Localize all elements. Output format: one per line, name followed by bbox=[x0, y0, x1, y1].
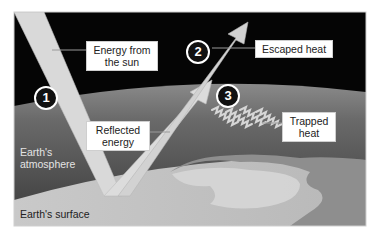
atmosphere-label-line: atmosphere bbox=[20, 158, 75, 170]
callout-line: heat bbox=[288, 127, 330, 139]
callout-line: Energy from bbox=[92, 44, 152, 56]
callout-escaped-heat: Escaped heat bbox=[255, 40, 333, 58]
callout-line: energy bbox=[92, 136, 144, 148]
surface-label: Earth's surface bbox=[20, 208, 90, 220]
atmosphere-label: Earth's atmosphere bbox=[20, 146, 75, 170]
callout-line: Escaped heat bbox=[261, 43, 327, 55]
step-marker-3: 3 bbox=[216, 84, 240, 108]
callout-reflected-energy: Reflected energy bbox=[86, 121, 150, 151]
callout-energy-from-sun: Energy from the sun bbox=[86, 41, 158, 71]
atmosphere-label-line: Earth's bbox=[20, 146, 75, 158]
callout-trapped-heat: Trapped heat bbox=[282, 112, 336, 142]
callout-line: the sun bbox=[92, 56, 152, 68]
step-marker-1: 1 bbox=[34, 86, 58, 110]
callout-line: Reflected bbox=[92, 124, 144, 136]
greenhouse-diagram: Energy from the sun Escaped heat Reflect… bbox=[0, 0, 372, 236]
callout-line: Trapped bbox=[288, 115, 330, 127]
step-marker-2: 2 bbox=[186, 40, 210, 64]
